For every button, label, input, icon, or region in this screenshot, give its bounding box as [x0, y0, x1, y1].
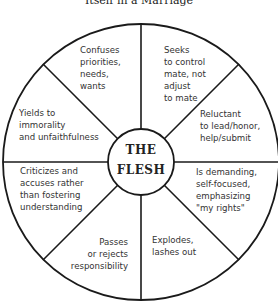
segment-text-line: understanding	[20, 201, 84, 213]
segment-text-line: to mate	[164, 92, 206, 104]
segment-text-line: Reluctant	[200, 108, 260, 120]
segment-text-line: wants	[80, 80, 121, 92]
segment-text-line: mate, not	[164, 68, 206, 80]
segment-text-line: Is demanding,	[196, 166, 257, 178]
segment-left-lower: Criticizes and accuses rather than foste…	[20, 165, 84, 213]
center-line-1: THE	[108, 140, 174, 160]
segment-text-line: self-focused,	[196, 178, 257, 190]
segment-text-line: lashes out	[152, 246, 196, 258]
segment-text-line: Criticizes and	[20, 165, 84, 177]
segment-text-line: "my rights"	[196, 202, 257, 214]
segment-text-line: responsibility	[60, 260, 128, 272]
segment-right-lower: Is demanding, self-focused, emphasizing …	[196, 166, 257, 214]
segment-text-line: to lead/honor,	[200, 120, 260, 132]
segment-bottom-left: Passes or rejects responsibility	[60, 236, 128, 272]
segment-text-line: adjust	[164, 80, 206, 92]
segment-text-line: help/submit	[200, 132, 260, 144]
segment-text-line: and unfaithfulness	[19, 131, 99, 143]
segment-text-line: immorality	[19, 119, 99, 131]
segment-text-line: or rejects	[60, 248, 128, 260]
center-label: THE FLESH	[108, 140, 174, 180]
segment-text-line: Confuses	[80, 44, 121, 56]
segment-right-upper: Reluctant to lead/honor, help/submit	[200, 108, 260, 144]
center-line-2: FLESH	[108, 160, 174, 180]
segment-text-line: priorities,	[80, 56, 121, 68]
segment-text-line: emphasizing	[196, 190, 257, 202]
segment-text-line: needs,	[80, 68, 121, 80]
segment-text-line: than fostering	[20, 189, 84, 201]
segment-text-line: accuses rather	[20, 177, 84, 189]
segment-text-line: Explodes,	[152, 234, 196, 246]
segment-top-left: Confuses priorities, needs, wants	[80, 44, 121, 92]
segment-text-line: Seeks	[164, 44, 206, 56]
segment-bottom-right: Explodes, lashes out	[152, 234, 196, 258]
segment-text-line: Passes	[60, 236, 128, 248]
segment-left-upper: Yields to immorality and unfaithfulness	[19, 107, 99, 143]
segment-text-line: Yields to	[19, 107, 99, 119]
segment-top-right: Seeks to control mate, not adjust to mat…	[164, 44, 206, 104]
segment-text-line: to control	[164, 56, 206, 68]
